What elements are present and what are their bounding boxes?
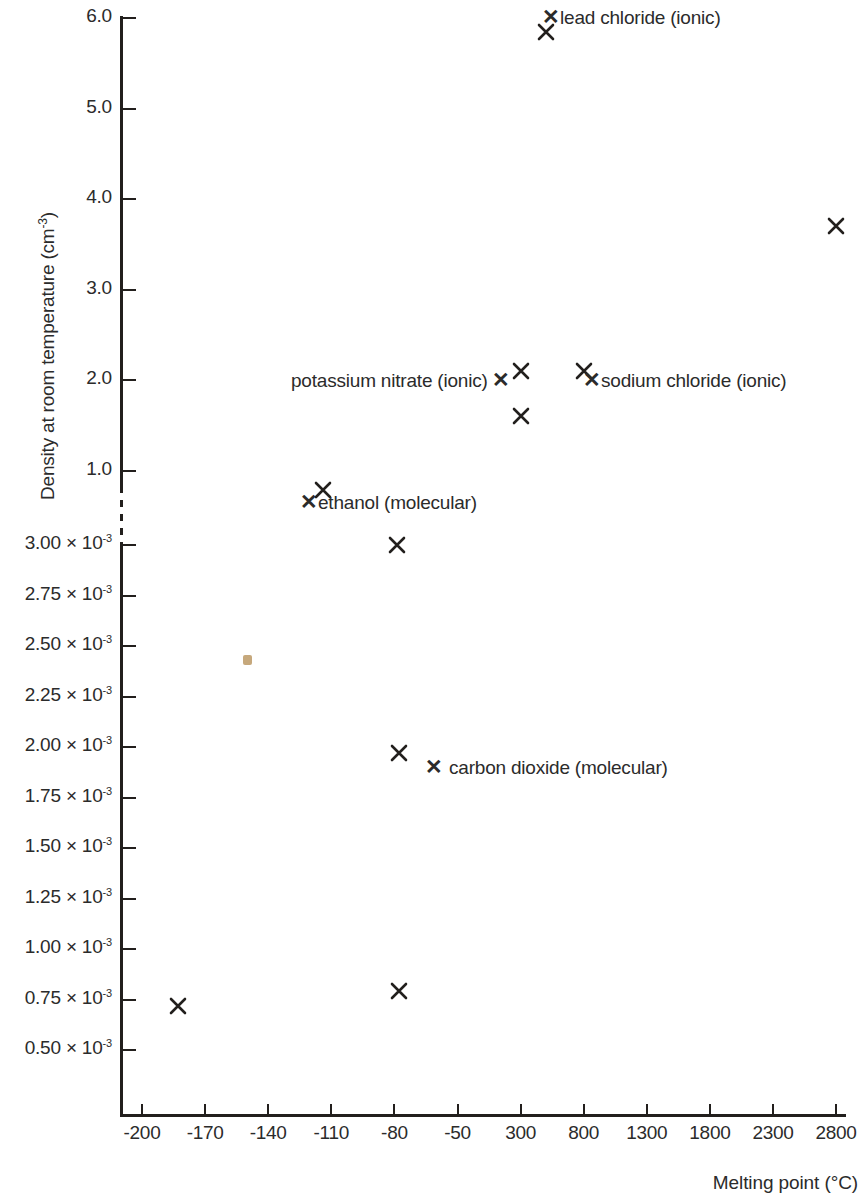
annotation-sodium-chloride: ✕sodium chloride (ionic): [583, 369, 786, 392]
y-tick-mark: [123, 379, 136, 381]
y-tick-label-mantissa: 2.00 × 10: [25, 734, 103, 755]
data-point-x-icon: [386, 534, 408, 556]
x-tick-mark: [835, 1104, 837, 1115]
x-tick-mark: [393, 1104, 395, 1115]
y-tick-mark: [123, 696, 136, 698]
y-tick-label: 6.0: [0, 5, 112, 27]
data-point-x-icon: [388, 742, 410, 764]
y-tick-label: 4.0: [0, 186, 112, 208]
y-axis-line-lower: [120, 543, 123, 1116]
x-axis-title: Melting point (°C): [713, 1172, 858, 1194]
y-tick-mark: [123, 108, 136, 110]
x-tick-mark: [141, 1104, 143, 1115]
x-tick-mark: [457, 1104, 459, 1115]
data-point-x-icon: [510, 405, 532, 427]
x-tick-mark: [520, 1104, 522, 1115]
y-tick-label: 1.25 × 10-3: [0, 886, 112, 908]
y-tick-label-exponent: -3: [103, 886, 112, 898]
y-tick-label: 2.50 × 10-3: [0, 633, 112, 655]
marker-x-icon: ✕: [300, 490, 318, 513]
y-tick-label-exponent: -3: [103, 583, 112, 595]
annotation-ethanol-label: ethanol (molecular): [318, 492, 477, 513]
y-tick-label: 2.0: [0, 367, 112, 389]
y-tick-label: 0.50 × 10-3: [0, 1037, 112, 1059]
y-tick-label-mantissa: 1.25 × 10: [25, 886, 103, 907]
x-tick-label: 2800: [796, 1122, 866, 1144]
annotation-carbon-dioxide: ✕carbon dioxide (molecular): [425, 756, 668, 779]
annotation-carbon-dioxide-label: carbon dioxide (molecular): [449, 757, 668, 778]
x-tick-mark: [646, 1104, 648, 1115]
x-tick-mark: [330, 1104, 332, 1115]
y-tick-mark: [123, 1049, 136, 1051]
y-tick-label: 2.00 × 10-3: [0, 734, 112, 756]
y-tick-label-mantissa: 1.75 × 10: [25, 785, 103, 806]
y-tick-label: 1.0: [0, 458, 112, 480]
y-tick-label-exponent: -3: [103, 684, 112, 696]
y-tick-label-mantissa: 2.75 × 10: [25, 583, 103, 604]
y-tick-mark: [123, 17, 136, 19]
x-tick-mark: [204, 1104, 206, 1115]
y-tick-mark: [123, 898, 136, 900]
data-point-x-icon: [388, 980, 410, 1002]
annotation-sodium-chloride-label: sodium chloride (ionic): [601, 370, 786, 391]
marker-x-icon: ✕: [542, 5, 560, 28]
y-axis-title-tail: ): [37, 212, 58, 218]
y-tick-mark: [123, 595, 136, 597]
y-tick-label: 3.00 × 10-3: [0, 532, 112, 554]
y-tick-mark: [123, 948, 136, 950]
y-tick-label-mantissa: 0.50 × 10: [25, 1037, 103, 1058]
y-tick-label-mantissa: 3.00 × 10: [25, 532, 103, 553]
x-axis-line: [120, 1114, 846, 1117]
data-point-x-icon: [825, 215, 847, 237]
y-tick-label-exponent: -3: [103, 987, 112, 999]
marker-x-icon: ✕: [492, 368, 510, 391]
data-point-x-icon: [167, 995, 189, 1017]
y-tick-label-mantissa: 2.25 × 10: [25, 684, 103, 705]
y-tick-label: 1.50 × 10-3: [0, 835, 112, 857]
y-tick-mark: [123, 289, 136, 291]
y-tick-mark: [123, 746, 136, 748]
y-tick-mark: [123, 999, 136, 1001]
y-tick-mark: [123, 470, 136, 472]
y-tick-label: 2.25 × 10-3: [0, 684, 112, 706]
y-axis-break-dashes: [120, 486, 123, 546]
y-tick-label-exponent: -3: [103, 532, 112, 544]
y-tick-mark: [123, 797, 136, 799]
annotation-potassium-nitrate: potassium nitrate (ionic)✕: [291, 369, 510, 392]
y-tick-mark: [123, 645, 136, 647]
annotation-lead-chloride: ✕lead chloride (ionic): [542, 6, 721, 29]
y-tick-label-mantissa: 0.75 × 10: [25, 987, 103, 1008]
y-tick-label: 2.75 × 10-3: [0, 583, 112, 605]
data-point-dot: [243, 655, 252, 665]
y-tick-label-exponent: -3: [103, 734, 112, 746]
y-tick-label-exponent: -3: [103, 785, 112, 797]
x-tick-mark: [583, 1104, 585, 1115]
y-tick-label-mantissa: 1.00 × 10: [25, 936, 103, 957]
x-tick-mark: [772, 1104, 774, 1115]
y-tick-label-exponent: -3: [103, 936, 112, 948]
y-tick-mark: [123, 544, 136, 546]
x-tick-mark: [709, 1104, 711, 1115]
y-tick-label: 0.75 × 10-3: [0, 987, 112, 1009]
y-tick-mark: [123, 198, 136, 200]
y-tick-label-exponent: -3: [103, 1037, 112, 1049]
y-tick-label-mantissa: 1.50 × 10: [25, 835, 103, 856]
y-axis-title: Density at room temperature (cm-3): [28, 0, 58, 500]
y-tick-mark: [123, 847, 136, 849]
scatter-chart: Density at room temperature (cm-3) Melti…: [0, 0, 866, 1201]
annotation-ethanol: ✕ethanol (molecular): [300, 491, 477, 514]
y-tick-label-mantissa: 2.50 × 10: [25, 633, 103, 654]
y-tick-label: 3.0: [0, 277, 112, 299]
y-tick-label: 1.00 × 10-3: [0, 936, 112, 958]
data-point-x-icon: [510, 360, 532, 382]
y-tick-label-exponent: -3: [103, 633, 112, 645]
y-tick-label-exponent: -3: [103, 835, 112, 847]
y-tick-label: 1.75 × 10-3: [0, 785, 112, 807]
marker-x-icon: ✕: [425, 755, 443, 778]
x-tick-mark: [267, 1104, 269, 1115]
y-tick-label: 5.0: [0, 96, 112, 118]
annotation-potassium-nitrate-label: potassium nitrate (ionic): [291, 370, 488, 391]
y-axis-title-exponent: -3: [36, 218, 50, 228]
annotation-lead-chloride-label: lead chloride (ionic): [560, 7, 721, 28]
marker-x-icon: ✕: [583, 368, 601, 391]
